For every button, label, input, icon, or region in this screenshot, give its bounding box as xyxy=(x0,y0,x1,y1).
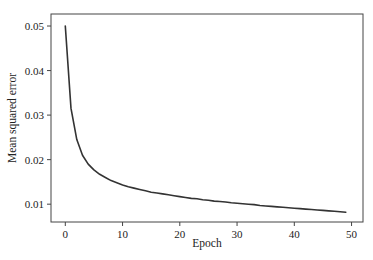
y-tick-label: 0.03 xyxy=(25,109,45,121)
x-tick-label: 40 xyxy=(289,228,301,240)
x-tick-label: 10 xyxy=(117,228,129,240)
x-tick-label: 50 xyxy=(346,228,358,240)
y-tick-label: 0.01 xyxy=(25,198,44,210)
x-tick-label: 30 xyxy=(232,228,244,240)
x-axis-label: Epoch xyxy=(192,237,222,250)
x-tick-label: 20 xyxy=(174,228,186,240)
y-tick-label: 0.02 xyxy=(25,154,44,166)
x-tick-label: 0 xyxy=(63,228,69,240)
plot-area xyxy=(51,14,363,222)
y-tick-label: 0.04 xyxy=(25,65,45,77)
y-axis-label: Mean squared error xyxy=(6,73,19,163)
line-chart: 0.010.020.030.040.05 01020304050 Epoch M… xyxy=(0,0,373,260)
y-tick-label: 0.05 xyxy=(25,20,45,32)
y-axis-ticks: 0.010.020.030.040.05 xyxy=(25,20,51,210)
